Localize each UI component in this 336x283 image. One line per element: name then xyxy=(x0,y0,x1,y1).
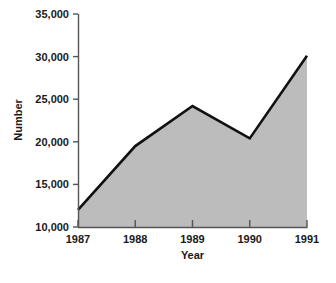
y-tick-label: 25,000 xyxy=(35,93,69,105)
y-tick-label: 10,000 xyxy=(35,221,69,233)
x-tick-label: 1990 xyxy=(238,233,262,245)
x-axis-tick-labels: 19871988198919901991 xyxy=(66,233,319,245)
area-chart: 10,00015,00020,00025,00030,00035,000 198… xyxy=(0,0,336,283)
y-tick-label: 15,000 xyxy=(35,178,69,190)
x-tick-label: 1987 xyxy=(66,233,90,245)
x-tick-label: 1989 xyxy=(180,233,204,245)
y-tick-label: 20,000 xyxy=(35,136,69,148)
y-axis-ticks xyxy=(73,14,78,227)
x-tick-label: 1988 xyxy=(123,233,147,245)
y-axis-title: Number xyxy=(12,99,24,141)
y-axis-tick-labels: 10,00015,00020,00025,00030,00035,000 xyxy=(35,8,69,233)
x-tick-label: 1991 xyxy=(295,233,319,245)
chart-container: 10,00015,00020,00025,00030,00035,000 198… xyxy=(0,0,336,283)
y-tick-label: 30,000 xyxy=(35,51,69,63)
x-axis-title: Year xyxy=(181,249,205,261)
y-tick-label: 35,000 xyxy=(35,8,69,20)
